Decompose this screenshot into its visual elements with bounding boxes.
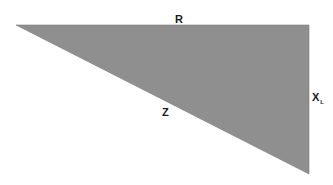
triangle-svg xyxy=(0,0,333,185)
resistance-label-text: R xyxy=(175,13,183,25)
impedance-triangle xyxy=(16,25,309,174)
inductive-reactance-label: XL xyxy=(312,92,324,103)
reactance-symbol: X xyxy=(312,91,319,103)
resistance-label: R xyxy=(175,14,183,25)
impedance-label: Z xyxy=(162,107,169,118)
impedance-label-text: Z xyxy=(162,106,169,118)
impedance-triangle-diagram: R Z XL xyxy=(0,0,333,185)
reactance-subscript: L xyxy=(320,99,324,105)
